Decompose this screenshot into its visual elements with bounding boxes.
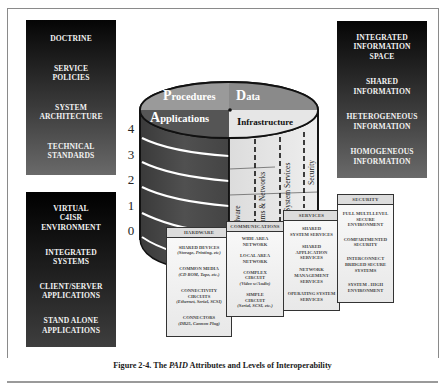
communications-entry: COMPLEX CIRCUIT(Video w/Audio): [228, 270, 282, 287]
quadrant-infrastructure-label: Infrastructure: [237, 115, 293, 127]
security-box-header: SECURITY: [338, 195, 393, 205]
security-entry: INTERCONNECT BRIDGED SECURE SYSTEMS: [339, 256, 392, 273]
services-entry: SHARED APPLICATION SERVICES: [285, 244, 338, 261]
communications-box: COMMUNICATIONS WIDE AREA NETWORK LOCAL A…: [226, 221, 284, 317]
communications-box-header: COMMUNICATIONS: [227, 222, 283, 232]
communications-entry: SIMPLE CIRCUIT(Serial, SCSI, etc.): [228, 292, 282, 309]
hardware-entry: CONNECTORS(DB25, Cannon Plug): [168, 315, 230, 326]
security-box: SECURITY FULL MULTI-LEVEL SECURE ENVIRON…: [337, 194, 394, 303]
communications-entry: WIDE AREA NETWORK: [228, 236, 282, 247]
hardware-box: HARDWARE SHARED DEVICES(Storage, Printin…: [166, 227, 232, 337]
services-entry: SHARED SYSTEM SERVICES: [285, 226, 338, 237]
column-security-label: Security: [307, 160, 319, 185]
services-box-header: SERVICES: [284, 211, 339, 221]
quadrant-data-label: Data: [236, 88, 260, 104]
security-entry: FULL MULTI-LEVEL SECURE ENVIRONMENT: [339, 211, 392, 228]
bottom-rule: [7, 381, 438, 383]
communications-entry: LOCAL AREA NETWORK: [228, 253, 282, 264]
security-entry: SYSTEM - HIGH ENVIRONMENT: [339, 282, 392, 293]
hardware-entry: CONNECTIVITY CIRCUITS(Ethernet, Serial, …: [168, 288, 230, 305]
column-system-services-label: System Services: [283, 163, 295, 212]
quadrant-procedures-label: Procedures: [163, 88, 216, 104]
figure-caption: Figure 2-4. The PAID Attributes and Leve…: [0, 361, 445, 370]
hardware-box-header: HARDWARE: [167, 228, 231, 238]
services-entry: OPERATING SYSTEM SERVICES: [285, 291, 338, 302]
hardware-entry: SHARED DEVICES(Storage, Printing, etc): [168, 245, 230, 256]
services-entry: NETWORK MANAGEMENT SERVICES: [285, 267, 338, 284]
services-box: SERVICES SHARED SYSTEM SERVICES SHARED A…: [283, 210, 340, 311]
security-entry: COMPARTMENTED SECURITY: [339, 237, 392, 248]
hardware-entry: COMMON MEDIA(CD ROM, Tape, etc.): [168, 266, 230, 277]
quadrant-applications-label: Applications: [150, 110, 209, 126]
